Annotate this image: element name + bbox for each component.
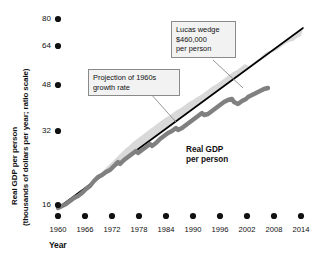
x-tick-label-1966: 1966 <box>71 225 99 234</box>
y-tick-label-80: 80 <box>31 14 51 23</box>
y-tick-marker <box>55 16 61 22</box>
annotation-projection: Projection of 1960s growth rate <box>88 69 180 96</box>
x-tick-marker <box>136 213 142 219</box>
y-tick-label-64: 64 <box>31 41 51 50</box>
x-tick-marker <box>244 213 250 219</box>
y-axis-title: Real GDP per person (thousands of dollar… <box>0 0 30 230</box>
x-tick-marker <box>82 213 88 219</box>
chart-figure: 80 64 48 32 16 1960 1966 1972 1978 1984 … <box>0 0 328 267</box>
x-tick-label-1996: 1996 <box>206 225 234 234</box>
x-tick-label-1972: 1972 <box>98 225 126 234</box>
y-axis-title-line1: Real GDP per person <box>10 127 20 205</box>
y-tick-label-32: 32 <box>31 126 51 135</box>
y-tick-marker <box>55 43 61 49</box>
x-tick-label-1984: 1984 <box>152 225 180 234</box>
y-tick-marker <box>55 82 61 88</box>
x-tick-marker <box>190 213 196 219</box>
x-tick-marker <box>217 213 223 219</box>
y-tick-label-48: 48 <box>31 80 51 89</box>
x-tick-label-2002: 2002 <box>233 225 261 234</box>
real-gdp-line <box>58 88 268 208</box>
projection-leader-line <box>150 93 176 122</box>
x-tick-label-2008: 2008 <box>260 225 288 234</box>
y-tick-label-16: 16 <box>31 200 51 209</box>
x-tick-label-1978: 1978 <box>125 225 153 234</box>
annotation-lucas-wedge: Lucas wedge $460,000 per person <box>171 21 236 58</box>
annotation-real-gdp-per-person: Real GDP per person <box>186 145 228 165</box>
x-tick-label-1990: 1990 <box>179 225 207 234</box>
y-tick-marker <box>55 128 61 134</box>
x-tick-marker <box>109 213 115 219</box>
x-tick-label-2014: 2014 <box>287 225 315 234</box>
y-tick-marker <box>55 202 61 208</box>
x-tick-marker <box>298 213 304 219</box>
x-tick-marker <box>271 213 277 219</box>
x-tick-marker <box>55 213 61 219</box>
x-tick-label-1960: 1960 <box>44 225 72 234</box>
x-tick-marker <box>163 213 169 219</box>
y-axis-title-line2: (thousands of dollars per year; ratio sc… <box>21 69 31 226</box>
x-axis-title: Year <box>49 240 67 250</box>
